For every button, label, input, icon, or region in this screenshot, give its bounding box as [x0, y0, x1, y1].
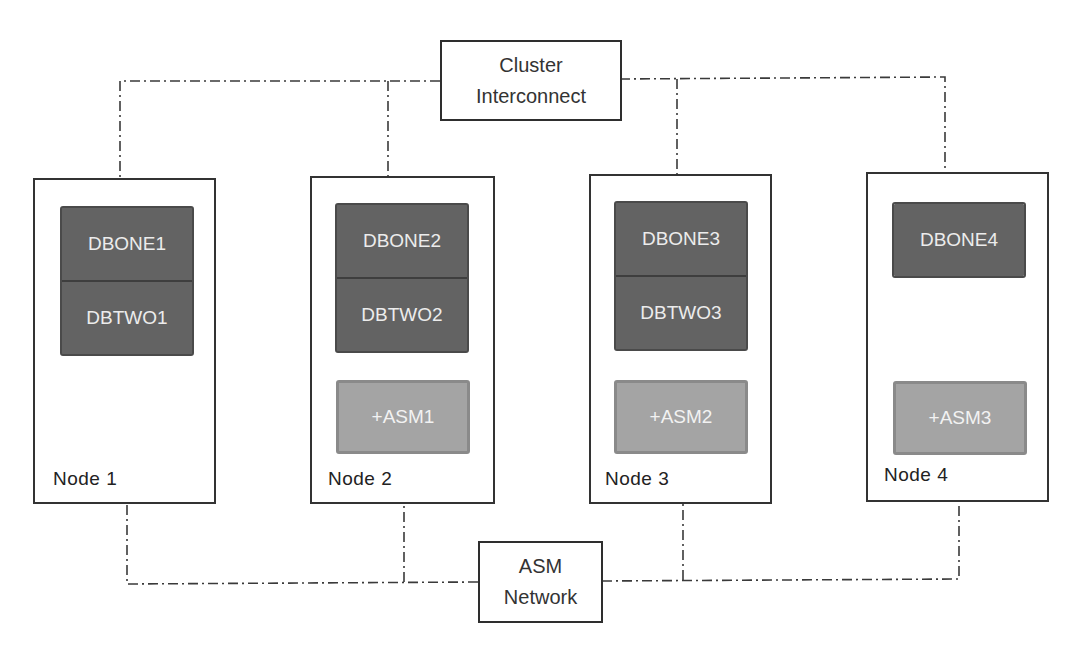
- database-stack: DBONE2 DBTWO2: [335, 203, 469, 353]
- database-instance: DBONE4: [894, 204, 1024, 276]
- database-instance: DBONE2: [337, 205, 467, 277]
- database-instance: DBTWO2: [337, 277, 467, 351]
- asm-network-box: ASM Network: [478, 541, 603, 623]
- database-instance: DBONE1: [62, 208, 192, 280]
- asm-instance: +ASM2: [614, 380, 748, 454]
- cluster-interconnect-label-line1: Cluster: [499, 50, 562, 81]
- cluster-interconnect-label-line2: Interconnect: [476, 81, 586, 112]
- node-4: DBONE4 +ASM3 Node 4: [866, 172, 1049, 502]
- interconnect-line-left: [120, 81, 440, 178]
- rac-cluster-diagram: Cluster Interconnect ASM Network DBONE1 …: [0, 0, 1079, 656]
- node-label: Node 1: [53, 468, 117, 490]
- node-1: DBONE1 DBTWO1 Node 1: [33, 178, 216, 504]
- asm-network-label-line2: Network: [504, 582, 577, 613]
- database-instance: DBONE3: [616, 203, 746, 275]
- node-3: DBONE3 DBTWO3 +ASM2 Node 3: [589, 174, 772, 504]
- node-label: Node 3: [605, 468, 669, 490]
- node-2: DBONE2 DBTWO2 +ASM1 Node 2: [310, 176, 495, 504]
- asm-instance: +ASM3: [893, 381, 1027, 455]
- node-label: Node 4: [884, 464, 948, 486]
- node-label: Node 2: [328, 468, 392, 490]
- interconnect-line-right: [620, 77, 945, 172]
- asm-instance: +ASM1: [336, 380, 470, 454]
- database-stack: DBONE4: [892, 202, 1026, 278]
- database-instance: DBTWO1: [62, 280, 192, 354]
- database-stack: DBONE3 DBTWO3: [614, 201, 748, 351]
- cluster-interconnect-box: Cluster Interconnect: [440, 40, 622, 121]
- asm-line-left: [127, 503, 478, 584]
- asm-line-right: [602, 501, 959, 581]
- asm-network-label-line1: ASM: [519, 551, 562, 582]
- database-stack: DBONE1 DBTWO1: [60, 206, 194, 356]
- database-instance: DBTWO3: [616, 275, 746, 349]
